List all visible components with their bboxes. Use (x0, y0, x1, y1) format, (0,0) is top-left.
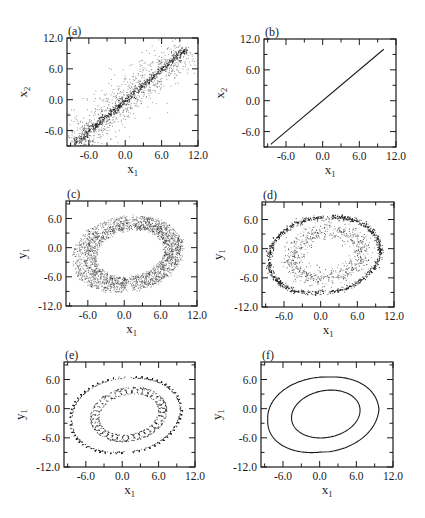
y-tick-label: 6.0 (243, 374, 258, 386)
y-tick-label: 0.0 (243, 403, 258, 415)
figure-canvas: -6.00.06.012.0-6.00.06.012.0x1x2(a)-6.00… (0, 0, 425, 518)
panel-label: (b) (265, 25, 279, 39)
y-tick-label: -6.0 (239, 432, 257, 444)
x-tick-label: 0.0 (115, 470, 130, 482)
y-axis-label: y1 (14, 248, 31, 259)
panel-a: -6.00.06.012.0-6.00.06.012.0x1x2(a) (15, 24, 208, 178)
plot-area (266, 214, 384, 295)
panel-label: (d) (263, 188, 277, 202)
y-axis-label: y1 (209, 409, 226, 420)
y-tick-label: -12.0 (38, 300, 62, 312)
y-tick-label: 6.0 (246, 64, 261, 76)
x-tick-label: 0.0 (117, 309, 132, 321)
plot-area (70, 376, 183, 454)
x-tick-label: 6.0 (151, 470, 166, 482)
x-tick-label: 0.0 (313, 310, 328, 322)
x-tick-label: 12.0 (384, 310, 404, 322)
panel-e: -6.00.06.012.0-12.0-6.00.06.0x1y1(e) (12, 348, 205, 499)
x-tick-label: 6.0 (349, 470, 364, 482)
x-tick-label: 6.0 (350, 310, 365, 322)
panel-b: -6.00.06.012.0-6.00.06.012.0x1x2(b) (212, 25, 406, 179)
y-tick-label: -6.0 (42, 432, 60, 444)
x-tick-label: -6.0 (80, 149, 98, 161)
y-tick-label: -12.0 (233, 461, 257, 473)
y-tick-label: -6.0 (44, 271, 62, 283)
x-tick-label: 0.0 (315, 150, 330, 162)
x-axis-label: x1 (323, 322, 334, 339)
x-axis-label: x1 (126, 321, 137, 338)
x-tick-label: 0.0 (312, 470, 327, 482)
outer-loop (268, 377, 379, 453)
x-tick-label: 12.0 (386, 150, 406, 162)
x-tick-label: -6.0 (275, 310, 293, 322)
x-tick-label: -6.0 (77, 470, 95, 482)
y-axis-label: x2 (212, 88, 229, 99)
y-tick-label: 6.0 (49, 63, 64, 75)
panel-f: -6.00.06.012.0-12.0-6.00.06.0x1y1(f) (209, 348, 403, 499)
x-axis-label: x1 (124, 482, 135, 499)
x-tick-label: -6.0 (274, 470, 292, 482)
x-tick-label: 0.0 (118, 149, 133, 161)
x-tick-label: -6.0 (277, 150, 295, 162)
sync-line (271, 49, 384, 144)
y-axis-label: y1 (12, 409, 29, 420)
y-tick-label: -6.0 (45, 125, 63, 137)
y-axis-label: y1 (210, 249, 227, 260)
inner-loop (292, 390, 361, 438)
y-tick-label: -12.0 (36, 461, 60, 473)
y-tick-label: -6.0 (240, 272, 258, 284)
panel-c: -6.00.06.012.0-12.0-6.00.06.0x1y1(c) (14, 187, 207, 338)
y-tick-label: 12.0 (43, 32, 63, 44)
y-tick-label: 0.0 (46, 403, 61, 415)
panel-label: (e) (65, 348, 78, 362)
axes-frame (64, 362, 195, 467)
y-tick-label: 6.0 (46, 374, 61, 386)
y-tick-label: 6.0 (48, 213, 63, 225)
y-tick-label: 12.0 (240, 33, 260, 45)
y-tick-label: 6.0 (244, 214, 259, 226)
x-tick-label: -6.0 (79, 309, 97, 321)
x-tick-label: 12.0 (187, 309, 207, 321)
x-tick-label: 12.0 (185, 470, 205, 482)
y-tick-label: 0.0 (48, 242, 63, 254)
x-tick-label: 6.0 (153, 309, 168, 321)
x-tick-label: 6.0 (352, 150, 367, 162)
y-tick-label: 0.0 (49, 94, 64, 106)
y-tick-label: -12.0 (234, 301, 258, 313)
y-tick-label: -6.0 (242, 126, 260, 138)
panel-label: (a) (68, 24, 81, 38)
plot-area (56, 34, 197, 163)
figure: -6.00.06.012.0-6.00.06.012.0x1x2(a)-6.00… (0, 0, 425, 518)
y-tick-label: 0.0 (246, 95, 261, 107)
x-axis-label: x1 (322, 482, 333, 499)
x-tick-label: 6.0 (154, 149, 169, 161)
x-axis-label: x1 (127, 161, 138, 178)
plot-area (72, 214, 184, 293)
x-tick-label: 12.0 (188, 149, 208, 161)
plot-area (268, 377, 379, 453)
x-axis-label: x1 (325, 162, 336, 179)
x-tick-label: 12.0 (383, 470, 403, 482)
panel-label: (c) (67, 187, 80, 201)
y-tick-label: 0.0 (244, 243, 259, 255)
panel-label: (f) (262, 348, 274, 362)
plot-area (271, 49, 384, 144)
y-axis-label: x2 (15, 87, 32, 98)
panel-d: -6.00.06.012.0-12.0-6.00.06.0x1y1(d) (210, 188, 404, 339)
